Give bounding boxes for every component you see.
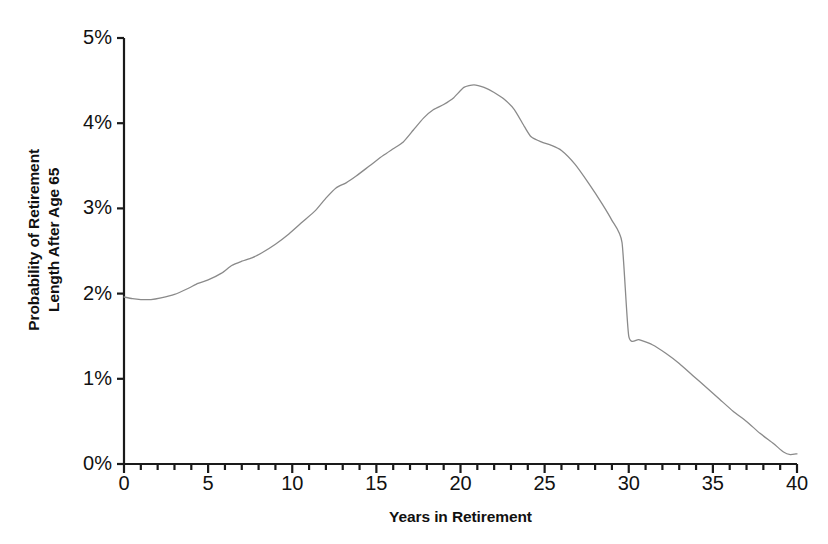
data-series-line: [124, 85, 797, 455]
axis-tick-marks: [117, 38, 797, 473]
axes-spines: [124, 38, 797, 464]
chart-figure: Probability of Retirement Length After A…: [0, 0, 828, 544]
plot-area: [0, 0, 828, 544]
x-axis-title: Years in Retirement: [124, 508, 797, 526]
